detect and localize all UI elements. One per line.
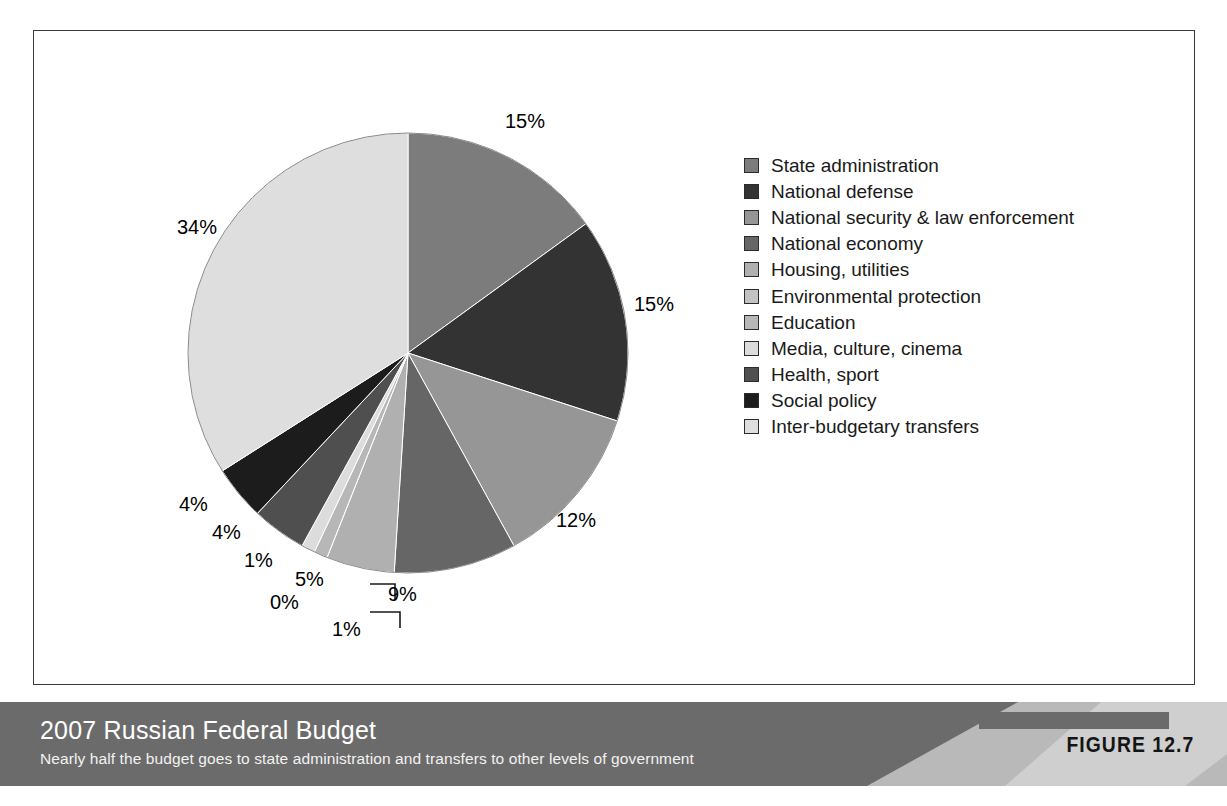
legend-swatch-icon	[744, 210, 759, 225]
figure-badge-bar	[979, 712, 1169, 729]
legend-item: Health, sport	[744, 362, 1174, 388]
legend-item: National economy	[744, 231, 1174, 257]
pie-data-label: 4%	[179, 493, 208, 516]
pie-data-label: 15%	[634, 293, 674, 316]
legend-item-label: Education	[771, 313, 856, 332]
figure-container: 15%15%12%9%5%0%1%1%4%4%34% State adminis…	[0, 0, 1227, 806]
legend-item: Media, culture, cinema	[744, 335, 1174, 361]
legend-item: Inter-budgetary transfers	[744, 414, 1174, 440]
pie-data-label: 5%	[295, 568, 324, 591]
legend-item-label: Housing, utilities	[771, 260, 909, 279]
legend-item-label: Social policy	[771, 391, 877, 410]
pie-data-label: 0%	[270, 591, 299, 614]
legend-swatch-icon	[744, 419, 759, 434]
legend-item: Housing, utilities	[744, 257, 1174, 283]
legend-swatch-icon	[744, 367, 759, 382]
legend-item: Social policy	[744, 388, 1174, 414]
figure-subtitle: Nearly half the budget goes to state adm…	[40, 750, 694, 768]
pie-data-label: 4%	[212, 521, 241, 544]
legend-item: National defense	[744, 178, 1174, 204]
legend-swatch-icon	[744, 289, 759, 304]
legend-swatch-icon	[744, 315, 759, 330]
legend-swatch-icon	[744, 236, 759, 251]
legend-item-label: State administration	[771, 156, 939, 175]
pie-data-label: 9%	[388, 583, 417, 606]
leader-line-education	[370, 612, 400, 628]
chart-plot-area: 15%15%12%9%5%0%1%1%4%4%34% State adminis…	[0, 0, 1227, 690]
pie-data-label: 12%	[556, 509, 596, 532]
legend-item-label: National economy	[771, 234, 923, 253]
legend-item-label: Media, culture, cinema	[771, 339, 962, 358]
legend-swatch-icon	[744, 158, 759, 173]
chart-legend: State administrationNational defenseNati…	[744, 152, 1174, 440]
legend-item-label: Health, sport	[771, 365, 879, 384]
legend-item: Environmental protection	[744, 283, 1174, 309]
pie-data-label: 1%	[244, 549, 273, 572]
pie-slice-group	[188, 133, 628, 573]
pie-data-label: 15%	[505, 110, 545, 133]
legend-swatch-icon	[744, 262, 759, 277]
legend-item-label: National security & law enforcement	[771, 208, 1074, 227]
caption-band: FIGURE 12.7 2007 Russian Federal Budget …	[0, 702, 1227, 786]
legend-item-label: Inter-budgetary transfers	[771, 417, 979, 436]
pie-data-label: 34%	[177, 216, 217, 239]
legend-item: State administration	[744, 152, 1174, 178]
figure-number-label: FIGURE 12.7	[1066, 732, 1194, 758]
legend-item-label: Environmental protection	[771, 287, 981, 306]
legend-item: National security & law enforcement	[744, 204, 1174, 230]
legend-item: Education	[744, 309, 1174, 335]
legend-swatch-icon	[744, 184, 759, 199]
legend-item-label: National defense	[771, 182, 914, 201]
pie-data-label: 1%	[332, 618, 361, 641]
legend-swatch-icon	[744, 393, 759, 408]
figure-title: 2007 Russian Federal Budget	[40, 716, 376, 745]
legend-swatch-icon	[744, 341, 759, 356]
